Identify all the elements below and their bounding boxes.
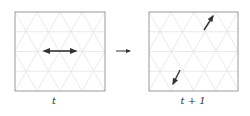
arrow-up-right-icon [204, 16, 213, 30]
time-label-t-plus-1: t + 1 [163, 95, 223, 106]
diagram: t t + 1 [0, 0, 250, 116]
time-label-t: t [24, 95, 84, 106]
